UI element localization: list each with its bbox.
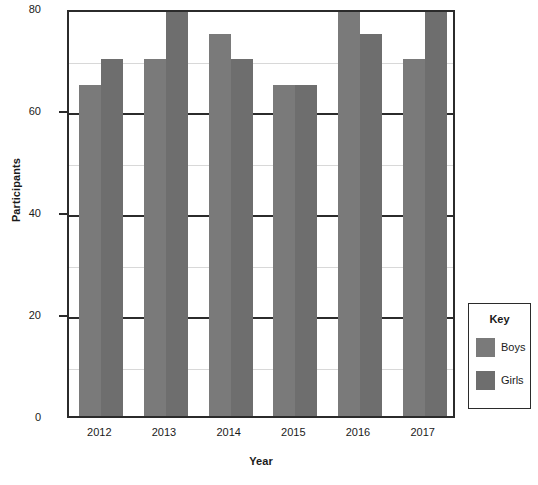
- bar-girls-2017: [425, 10, 447, 416]
- gridline-minor: [69, 369, 453, 370]
- x-tick-label-2014: 2014: [196, 426, 261, 439]
- gridline-major: [69, 113, 453, 115]
- bar-boys-2013: [144, 59, 166, 416]
- gridline-minor: [69, 267, 453, 268]
- bar-girls-2012: [101, 59, 123, 416]
- bar-girls-2013: [166, 10, 188, 416]
- gridline-minor: [69, 165, 453, 166]
- bar-girls-2016: [360, 34, 382, 417]
- y-tick-mark: [59, 213, 67, 215]
- bar-boys-2016: [338, 10, 360, 416]
- y-tick-mark: [59, 111, 67, 113]
- gridline-major: [69, 215, 453, 217]
- legend-label-boys: Boys: [501, 341, 525, 353]
- bar-boys-2014: [209, 34, 231, 417]
- legend-swatch-girls: [476, 371, 495, 390]
- plot-area: [67, 10, 455, 418]
- x-tick-label-2012: 2012: [67, 426, 132, 439]
- x-tick-label-2015: 2015: [261, 426, 326, 439]
- bar-girls-2015: [295, 85, 317, 417]
- bar-boys-2015: [273, 85, 295, 417]
- legend-label-girls: Girls: [501, 374, 524, 386]
- bar-chart: Participants 020406080 20122013201420152…: [0, 0, 538, 485]
- gridline-minor: [69, 63, 453, 64]
- legend-entry-girls: Girls: [476, 369, 530, 391]
- x-tick-label-2016: 2016: [326, 426, 391, 439]
- legend: Key BoysGirls: [468, 303, 531, 409]
- legend-entry-boys: Boys: [476, 336, 530, 358]
- legend-title: Key: [469, 313, 530, 325]
- y-tick-label: 40: [7, 208, 41, 219]
- bar-girls-2014: [231, 59, 253, 416]
- y-tick-label: 80: [7, 4, 41, 15]
- y-axis-title: Participants: [10, 130, 22, 250]
- bar-boys-2017: [403, 59, 425, 416]
- x-tick-label-2017: 2017: [390, 426, 455, 439]
- x-tick-label-2013: 2013: [132, 426, 197, 439]
- legend-swatch-boys: [476, 338, 495, 357]
- gridline-major: [69, 317, 453, 319]
- bar-boys-2012: [79, 85, 101, 417]
- y-tick-mark: [59, 315, 67, 317]
- y-tick-label: 60: [7, 106, 41, 117]
- y-tick-label: 20: [7, 310, 41, 321]
- x-axis-title: Year: [67, 455, 455, 467]
- y-tick-label: 0: [7, 412, 41, 423]
